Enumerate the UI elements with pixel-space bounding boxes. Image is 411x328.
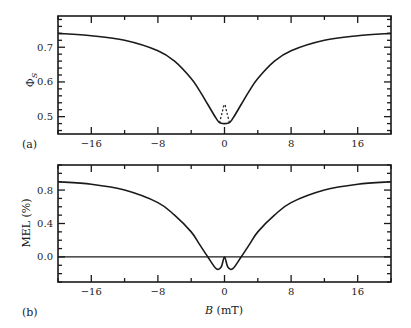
phi-s-dashed-curve [220, 105, 230, 123]
x-tick-label: 8 [288, 286, 294, 297]
x-axis-label: B (mT) [204, 304, 243, 317]
y-axis-label-b: MEL (%) [20, 198, 33, 247]
phi-s-curve [58, 33, 391, 123]
panel-label-b: (b) [22, 306, 38, 319]
x-tick-label: −16 [81, 138, 102, 149]
y-tick-label: 0.6 [37, 76, 53, 87]
y-tick-label: 0.4 [37, 218, 53, 229]
mel-curve [58, 182, 391, 270]
x-tick-label: 16 [351, 138, 364, 149]
x-tick-label: −8 [151, 138, 166, 149]
x-tick-label: −16 [81, 286, 102, 297]
figure: −16 −8 0 8 16 0.5 0.6 0.7 ΦS (a) −16 −8 … [0, 0, 411, 328]
panel-b: −16 −8 0 8 16 0.0 0.4 0.8 MEL (%) B (mT)… [20, 165, 391, 319]
y-tick-label: 0.5 [37, 111, 53, 122]
y-axis-label-a: ΦS [24, 72, 39, 87]
x-tick-label: 16 [351, 286, 364, 297]
y-tick-label: 0.7 [37, 42, 53, 53]
x-tick-label: 8 [288, 138, 294, 149]
x-tick-label: 0 [221, 286, 227, 297]
x-tick-label: 0 [221, 138, 227, 149]
y-tick-label: 0.8 [37, 185, 53, 196]
panel-label-a: (a) [22, 138, 37, 151]
panel-b-ticks [58, 165, 391, 282]
y-tick-label: 0.0 [37, 251, 53, 262]
panel-a-ticks [58, 16, 391, 134]
panel-b-frame [58, 165, 391, 282]
panel-a: −16 −8 0 8 16 0.5 0.6 0.7 ΦS (a) [22, 16, 391, 151]
x-tick-label: −8 [151, 286, 166, 297]
panel-a-frame [58, 16, 391, 134]
